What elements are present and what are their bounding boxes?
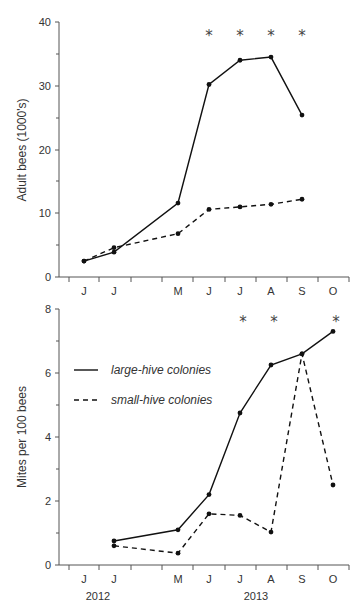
data-point	[112, 543, 117, 548]
data-point	[112, 539, 117, 544]
x-tick-label: O	[329, 285, 338, 297]
y-tick-label: 4	[45, 431, 51, 443]
bottom-x-ticks	[69, 565, 349, 570]
data-point	[238, 204, 243, 209]
data-point	[269, 55, 274, 60]
y-tick-label: 8	[45, 303, 51, 315]
x-tick-label: S	[298, 285, 305, 297]
data-point	[207, 207, 212, 212]
data-point	[238, 513, 243, 518]
y-tick-label: 6	[45, 367, 51, 379]
significance-star: *	[239, 313, 247, 331]
data-point	[176, 231, 181, 236]
top-x-tick-labels: J J M J J A S O	[81, 285, 337, 297]
y-tick-label: 0	[45, 559, 51, 571]
data-point	[300, 113, 305, 118]
significance-star: *	[298, 27, 306, 45]
small-hive-line	[114, 354, 333, 553]
x-tick-label: A	[267, 573, 275, 585]
y-tick-label: 10	[39, 207, 51, 219]
significance-star: *	[270, 313, 278, 331]
data-point	[112, 250, 117, 255]
data-point	[300, 351, 305, 356]
data-point	[238, 58, 243, 63]
x-tick-label: J	[111, 573, 117, 585]
y-tick-label: 20	[39, 144, 51, 156]
top-x-ticks	[69, 277, 349, 282]
x-tick-label: J	[237, 285, 243, 297]
x-tick-label: S	[298, 573, 305, 585]
x-tick-label: A	[267, 285, 275, 297]
legend-label-small: small-hive colonies	[111, 393, 212, 407]
year-label-2013: 2013	[244, 590, 268, 602]
bottom-x-tick-labels: J J M J J A S O	[81, 573, 337, 585]
y-tick-label: 0	[45, 271, 51, 283]
data-point	[207, 511, 212, 516]
data-point	[207, 492, 212, 497]
figure: 0 10 20 30 40 Adult bees (1000's) J J M …	[0, 0, 363, 613]
data-point	[207, 82, 212, 87]
small-hive-line	[84, 199, 302, 261]
x-tick-label: J	[111, 285, 117, 297]
bottom-y-ticks	[55, 309, 59, 565]
x-tick-label: J	[237, 573, 243, 585]
x-tick-label: M	[173, 285, 182, 297]
x-tick-label: M	[173, 573, 182, 585]
data-point	[331, 483, 336, 488]
x-tick-label: J	[206, 285, 212, 297]
large-hive-line	[84, 57, 302, 261]
bottom-y-tick-labels: 0 2 4 6 8	[45, 303, 51, 571]
significance-star: *	[236, 27, 244, 45]
significance-star: *	[332, 313, 340, 331]
data-point	[176, 527, 181, 532]
x-tick-label: J	[81, 573, 87, 585]
bottom-y-axis-title: Mites per 100 bees	[15, 386, 29, 488]
top-y-ticks	[55, 22, 59, 277]
data-point	[176, 551, 181, 556]
data-point	[82, 259, 87, 264]
top-chart: 0 10 20 30 40 Adult bees (1000's) J J M …	[15, 16, 349, 297]
top-series	[82, 55, 305, 264]
data-point	[269, 363, 274, 368]
legend-label-large: large-hive colonies	[111, 363, 211, 377]
year-label-2012: 2012	[86, 590, 110, 602]
data-point	[300, 197, 305, 202]
significance-star: *	[205, 27, 213, 45]
x-tick-label: J	[206, 573, 212, 585]
top-y-tick-labels: 0 10 20 30 40	[39, 16, 51, 283]
legend: large-hive colonies small-hive colonies	[74, 363, 212, 407]
top-y-axis-title: Adult bees (1000's)	[15, 98, 29, 201]
y-tick-label: 40	[39, 16, 51, 28]
x-tick-label: J	[81, 285, 87, 297]
data-point	[269, 530, 274, 535]
data-point	[269, 202, 274, 207]
top-significance-stars: * * * *	[205, 27, 306, 45]
data-point	[331, 329, 336, 334]
significance-star: *	[267, 27, 275, 45]
data-point	[112, 245, 117, 250]
data-point	[238, 411, 243, 416]
y-tick-label: 2	[45, 495, 51, 507]
bottom-chart: 0 2 4 6 8 Mites per 100 bees J J M J J A	[15, 303, 349, 602]
bottom-significance-stars: * * *	[239, 313, 340, 331]
y-tick-label: 30	[39, 80, 51, 92]
data-point	[176, 201, 181, 206]
x-tick-label: O	[329, 573, 338, 585]
